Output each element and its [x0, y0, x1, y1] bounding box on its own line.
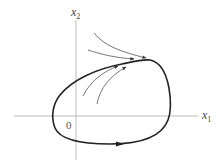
origin-label: 0: [66, 120, 72, 131]
trajectory-upper-left: [88, 50, 134, 59]
x1-label-sub: 1: [207, 115, 211, 124]
trajectory-inner-bottom: [97, 67, 126, 104]
x1-axis-label: x1: [202, 109, 211, 124]
phase-portrait: [0, 0, 221, 163]
limit-cycle: [53, 60, 171, 144]
cycle-direction-arrow: [116, 142, 124, 147]
x2-label-sub: 2: [76, 12, 80, 21]
x2-axis-label: x2: [71, 6, 80, 21]
